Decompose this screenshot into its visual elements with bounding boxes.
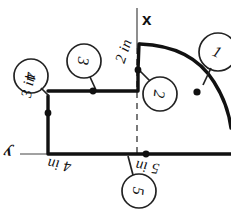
dimension-label-5in: 5 in bbox=[134, 157, 160, 177]
dimension-label-4in: 4 in bbox=[46, 155, 72, 175]
vertex-dot-left bbox=[45, 110, 52, 117]
step-riser-path bbox=[138, 44, 139, 70]
vertex-dot-step bbox=[135, 67, 142, 74]
vertex-dot-base bbox=[143, 151, 150, 158]
vertex-markers bbox=[45, 67, 201, 158]
diagram-vector-layer bbox=[0, 0, 231, 215]
rect-step-path bbox=[48, 96, 146, 154]
vertex-dot-top bbox=[90, 88, 97, 95]
callout-leader-5 bbox=[128, 156, 133, 175]
x-axis-label: x bbox=[142, 10, 151, 30]
hand-drawn-diagram-canvas: x y 3 in 2 in 4 in 5 in 1 2 3 4 5 bbox=[0, 0, 231, 215]
centroid-dot-arc bbox=[193, 88, 200, 95]
